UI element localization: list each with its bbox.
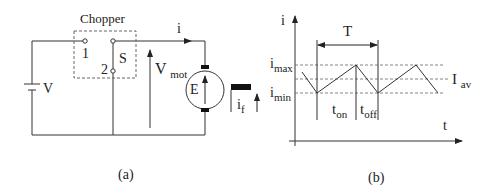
period-label: T (343, 24, 352, 39)
ton-label: ton (332, 102, 347, 120)
terminal-1-icon (83, 39, 87, 43)
current-arrow-icon (184, 38, 192, 44)
terminal-1-label: 1 (82, 47, 89, 61)
emf-label: E (190, 83, 199, 97)
toff-label: toff (360, 102, 377, 120)
chart-axes (289, 16, 462, 146)
iav-label: I av (452, 72, 471, 90)
y-axis-label: i (281, 14, 285, 28)
battery-label: V (43, 82, 53, 96)
imin-label: imin (270, 86, 291, 103)
switch-label: S (119, 52, 127, 66)
caption-b: (b) (368, 171, 384, 185)
x-axis-label: t (443, 119, 447, 133)
chopper-label: Chopper (80, 12, 125, 25)
switch-pivot-icon (111, 39, 115, 43)
current-label: i (177, 22, 181, 36)
imax-label: imax (270, 57, 293, 74)
terminal-2-icon (111, 69, 115, 73)
caption-a: (a) (118, 168, 134, 182)
field-current-label: if (237, 98, 245, 115)
vmot-label: V mot (155, 61, 187, 80)
diagram-canvas (0, 0, 492, 195)
terminal-2-label: 2 (101, 63, 108, 77)
battery-icon (24, 84, 40, 90)
